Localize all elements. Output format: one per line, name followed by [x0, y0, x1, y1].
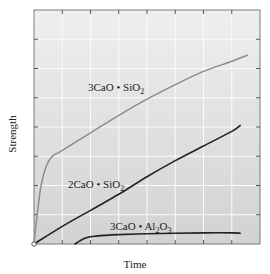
y-axis-label: Strength: [6, 104, 18, 164]
origin-marker: [32, 242, 36, 246]
x-axis-label: Time: [0, 258, 270, 270]
strength-vs-time-chart: 3CaO • SiO2 2CaO • SiO2 3CaO • Al2O3: [0, 0, 270, 274]
